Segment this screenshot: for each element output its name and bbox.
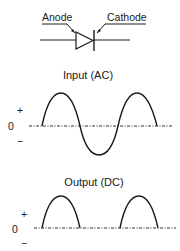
input-title: Input (AC): [63, 69, 113, 81]
diode-triangle-icon: [76, 32, 93, 49]
output-half-wave-2: [120, 196, 158, 228]
output-title: Output (DC): [64, 176, 123, 188]
diode-symbol: Anode Cathode: [40, 11, 147, 51]
input-plus-label: +: [17, 104, 23, 116]
input-sine-wave: [42, 93, 157, 155]
output-plus-label: +: [21, 208, 27, 220]
input-zero-label: 0: [8, 120, 14, 132]
input-minus-label: −: [17, 135, 23, 147]
cathode-label: Cathode: [107, 11, 147, 23]
output-half-wave-1: [42, 196, 80, 228]
diode-rectifier-diagram: Anode Cathode Input (AC) + 0 − Output (D…: [0, 0, 180, 251]
output-zero-label: 0: [12, 223, 18, 235]
anode-label: Anode: [42, 11, 73, 23]
input-ac-plot: Input (AC) + 0 −: [8, 69, 172, 155]
output-dc-plot: Output (DC) + 0 −: [12, 176, 176, 249]
output-minus-label: −: [21, 237, 27, 249]
